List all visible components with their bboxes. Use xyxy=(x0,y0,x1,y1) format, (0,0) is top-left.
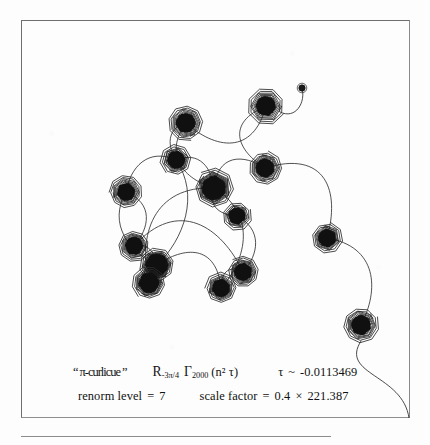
curlicue-label: “ π-curlicue ” xyxy=(73,362,126,382)
tau-relation: ~ xyxy=(288,362,295,382)
figure-page: “ π-curlicue ”R-3π/4Γ2000(n² τ)τ~-0.0113… xyxy=(0,0,430,445)
renorm-level-value: 7 xyxy=(159,386,165,406)
gamma-subscript: 2000 xyxy=(192,371,208,380)
operator-R: R-3π/4 xyxy=(152,362,179,386)
caption-line-1: “ π-curlicue ”R-3π/4Γ2000(n² τ)τ~-0.0113… xyxy=(21,362,410,386)
gamma-argument: (n² τ) xyxy=(211,362,238,382)
connector-arc-3-9 xyxy=(157,160,188,265)
spiral-clusters-group xyxy=(109,89,378,343)
scale-times-symbol: × xyxy=(295,386,302,406)
curlicue-plot-area xyxy=(21,20,410,418)
scale-value-b: 221.387 xyxy=(308,386,349,406)
tau-value: -0.0113469 xyxy=(300,362,357,382)
curlicue-curve-svg xyxy=(21,20,410,418)
caption-line-2: renorm level=7scale factor=0.4×221.387 xyxy=(21,386,410,406)
endpoint-dot-group xyxy=(297,83,307,93)
tau-symbol: τ xyxy=(278,362,283,382)
scale-factor-label: scale factor xyxy=(200,386,258,406)
operator-R-subscript: -3π/4 xyxy=(162,371,179,380)
renorm-level-label: renorm level xyxy=(78,386,142,406)
scale-value-a: 0.4 xyxy=(275,386,291,406)
renorm-equals: = xyxy=(147,386,154,406)
page-horizontal-rule xyxy=(21,436,331,437)
scale-equals: = xyxy=(263,386,270,406)
figure-caption: “ π-curlicue ”R-3π/4Γ2000(n² τ)τ~-0.0113… xyxy=(21,362,410,406)
isolated-endpoint-dot xyxy=(299,85,305,91)
gamma-operator: Γ2000 xyxy=(184,362,208,386)
